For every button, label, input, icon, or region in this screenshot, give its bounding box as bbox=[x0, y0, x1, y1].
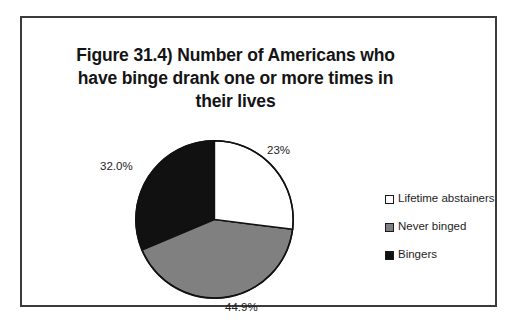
figure-root: Figure 31.4) Number of Americans who hav… bbox=[0, 0, 513, 325]
chart-title-line-2: have binge drank one or more times in bbox=[58, 67, 413, 90]
chart-legend: Lifetime abstainers Never binged Bingers bbox=[385, 188, 513, 272]
chart-frame-border: Figure 31.4) Number of Americans who hav… bbox=[20, 16, 497, 307]
legend-label-lifetime-abstainers: Lifetime abstainers bbox=[398, 193, 495, 205]
chart-title-line-3: their lives bbox=[58, 90, 413, 113]
legend-item-never-binged[interactable]: Never binged bbox=[385, 216, 513, 238]
legend-label-bingers: Bingers bbox=[398, 249, 437, 261]
legend-swatch-bingers-icon bbox=[385, 251, 394, 260]
pie-chart bbox=[134, 139, 295, 300]
slice-label-bingers: 32.0% bbox=[100, 160, 133, 172]
pie-chart-svg bbox=[134, 139, 295, 300]
chart-title: Figure 31.4) Number of Americans who hav… bbox=[58, 44, 413, 112]
slice-label-lifetime-abstainers: 23% bbox=[267, 144, 290, 156]
legend-swatch-lifetime-abstainers-icon bbox=[385, 195, 394, 204]
slice-label-never-binged: 44.9% bbox=[225, 301, 258, 313]
legend-item-bingers[interactable]: Bingers bbox=[385, 244, 513, 266]
legend-item-lifetime-abstainers[interactable]: Lifetime abstainers bbox=[385, 188, 513, 210]
legend-swatch-never-binged-icon bbox=[385, 223, 394, 232]
chart-title-line-1: Figure 31.4) Number of Americans who bbox=[58, 44, 413, 67]
legend-label-never-binged: Never binged bbox=[398, 221, 466, 233]
